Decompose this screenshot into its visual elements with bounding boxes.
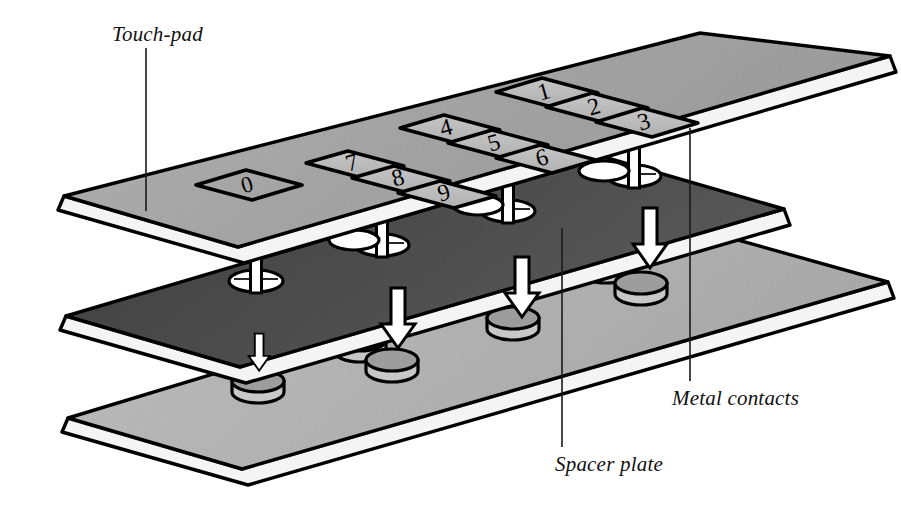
- callout-label-metal-contacts: Metal contacts: [672, 386, 799, 411]
- diagram-canvas: 0 7 8 9 4: [0, 0, 901, 517]
- callout-label-touch-pad: Touch-pad: [112, 22, 203, 47]
- metal-contact-disc: [615, 272, 667, 305]
- exploded-view-illustration: 0 7 8 9 4: [0, 0, 901, 517]
- callout-label-spacer-plate: Spacer plate: [555, 452, 663, 477]
- metal-contact-disc: [366, 349, 418, 382]
